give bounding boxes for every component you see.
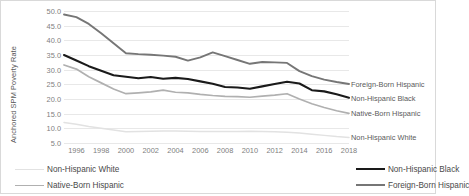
series-end-label: Non-Hispanic Black bbox=[351, 93, 416, 102]
legend-item[interactable]: Non-Hispanic White bbox=[15, 161, 124, 177]
x-axis-tick: 2008 bbox=[217, 146, 233, 155]
legend-label: Foreign-Born Hispanic bbox=[388, 181, 469, 190]
x-axis-tick: 2002 bbox=[143, 146, 159, 155]
y-axis-tick: 10.0 bbox=[47, 124, 61, 133]
x-axis-tick: 2016 bbox=[316, 146, 332, 155]
y-axis-tick: 40.0 bbox=[47, 36, 61, 45]
series-end-label: Non-Hispanic White bbox=[351, 133, 416, 142]
x-axis-tick: 1996 bbox=[68, 146, 84, 155]
y-axis-tick: 20.0 bbox=[47, 95, 61, 104]
x-axis-tick: 2004 bbox=[167, 146, 183, 155]
legend-line-icon bbox=[15, 169, 44, 170]
legend-label: Non-Hispanic White bbox=[47, 165, 119, 174]
y-axis-tick: 5.0 bbox=[51, 139, 61, 148]
x-axis-tick: 1998 bbox=[93, 146, 109, 155]
y-axis-tick: 15.0 bbox=[47, 109, 61, 118]
legend-line-icon bbox=[356, 168, 385, 170]
legend-item[interactable]: Native-Born Hispanic bbox=[15, 177, 124, 193]
legend-item[interactable]: Non-Hispanic Black bbox=[124, 161, 469, 177]
legend-item[interactable]: Foreign-Born Hispanic bbox=[124, 177, 469, 193]
series-end-labels: Foreign-Born HispanicNon-Hispanic BlackN… bbox=[351, 1, 439, 151]
series-line bbox=[64, 55, 349, 98]
y-axis-tick: 25.0 bbox=[47, 80, 61, 89]
y-axis-title: Anchored SPM Poverty Rate bbox=[9, 3, 18, 143]
legend-line-icon bbox=[15, 185, 44, 186]
series-line bbox=[64, 122, 349, 137]
plot-area bbox=[64, 11, 349, 143]
chart-legend: Non-Hispanic WhiteNon-Hispanic BlackNati… bbox=[1, 161, 437, 193]
series-lines bbox=[64, 11, 349, 143]
x-axis-tick: 2000 bbox=[118, 146, 134, 155]
legend-label: Non-Hispanic Black bbox=[388, 165, 459, 174]
y-axis-tick-labels: 50.045.040.035.030.025.020.015.010.05.0 bbox=[27, 11, 61, 143]
x-axis-tick: 2006 bbox=[192, 146, 208, 155]
series-end-label: Native-Born Hispanic bbox=[351, 109, 420, 118]
legend-label: Native-Born Hispanic bbox=[47, 181, 124, 190]
gridline bbox=[64, 143, 349, 144]
x-axis-tick: 2010 bbox=[242, 146, 258, 155]
y-axis-tick: 45.0 bbox=[47, 21, 61, 30]
y-axis-tick: 30.0 bbox=[47, 65, 61, 74]
y-axis-tick: 35.0 bbox=[47, 51, 61, 60]
series-end-label: Foreign-Born Hispanic bbox=[351, 80, 425, 89]
y-axis-tick: 50.0 bbox=[47, 7, 61, 16]
x-axis-tick-labels: 1996199820002002200420062008201020122014… bbox=[64, 146, 349, 158]
chart-figure: Anchored SPM Poverty Rate 50.045.040.035… bbox=[0, 0, 436, 194]
x-axis-tick: 2012 bbox=[266, 146, 282, 155]
legend-line-icon bbox=[356, 184, 385, 186]
x-axis-tick: 2014 bbox=[291, 146, 307, 155]
